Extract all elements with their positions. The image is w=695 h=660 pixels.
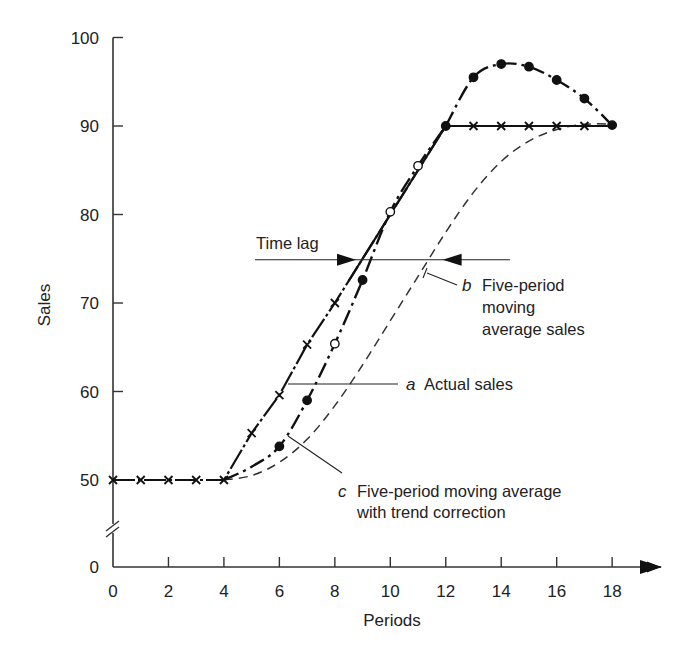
annotation-b-leader xyxy=(427,273,457,285)
y-tick-label: 70 xyxy=(80,294,99,313)
x-tick-label: 2 xyxy=(164,582,173,601)
annotation-a-letter: a xyxy=(406,375,415,394)
y-tick-label: 60 xyxy=(80,383,99,402)
filled-circle-marker-icon xyxy=(580,94,588,102)
filled-circle-marker-icon xyxy=(525,63,533,71)
open-circle-marker-icon xyxy=(386,208,394,216)
annotations xyxy=(255,254,510,473)
x-marker-icon xyxy=(275,391,283,399)
x-tick-label: 18 xyxy=(603,582,622,601)
x-tick-label: 16 xyxy=(547,582,566,601)
sales-moving-average-chart: 05060708090100024681012141618 Sales Peri… xyxy=(0,0,695,660)
series-b-moving-average xyxy=(224,124,612,480)
x-tick-label: 8 xyxy=(330,582,339,601)
filled-circle-marker-icon xyxy=(497,60,505,68)
filled-circle-marker-icon xyxy=(608,121,616,129)
annotation-c-letter: c xyxy=(338,482,347,501)
y-tick-label: 100 xyxy=(71,29,99,48)
series-a-solid-line xyxy=(349,126,612,281)
filled-circle-marker-icon xyxy=(469,73,477,81)
filled-circle-marker-icon xyxy=(358,276,366,284)
filled-circle-marker-icon xyxy=(303,396,311,404)
y-tick-label: 90 xyxy=(80,117,99,136)
open-circle-marker-icon xyxy=(414,162,422,170)
y-tick-label: 50 xyxy=(80,471,99,490)
x-axis-title: Periods xyxy=(363,611,421,630)
x-tick-label: 4 xyxy=(219,582,228,601)
time-lag-arrow-left-icon xyxy=(443,254,462,266)
x-tick-label: 0 xyxy=(108,582,117,601)
annotation-c-line-1: Five-period moving average xyxy=(357,482,562,500)
time-lag-label: Time lag xyxy=(256,234,319,252)
filled-circle-marker-icon xyxy=(552,76,560,84)
y-tick-label: 80 xyxy=(80,206,99,225)
x-tick-label: 14 xyxy=(492,582,511,601)
series-c-trend-corrected xyxy=(224,60,616,480)
filled-circle-marker-icon xyxy=(275,442,283,450)
x-tick-label: 12 xyxy=(436,582,455,601)
y-tick-label: 0 xyxy=(90,558,99,577)
series-a-line xyxy=(113,126,612,480)
x-tick-label: 10 xyxy=(381,582,400,601)
annotation-b-line-3: average sales xyxy=(482,320,585,338)
annotation-a-text: Actual sales xyxy=(424,375,513,393)
annotation-b-leader-tick xyxy=(423,268,427,278)
annotation-b-line-1: Five-period xyxy=(482,276,565,294)
time-lag-arrow-right-icon xyxy=(337,254,356,266)
x-marker-icon xyxy=(137,476,145,484)
filled-circle-marker-icon xyxy=(442,122,450,130)
annotation-b-line-2: moving xyxy=(482,298,535,316)
series-b-line xyxy=(224,124,612,480)
annotation-c-line-2: with trend correction xyxy=(356,503,506,521)
x-axis-arrow-icon xyxy=(640,560,662,574)
x-marker-icon xyxy=(303,341,311,349)
chart: 05060708090100024681012141618 Sales Peri… xyxy=(0,0,695,660)
y-axis-title: Sales xyxy=(35,284,54,327)
annotation-b-letter: b xyxy=(462,276,471,295)
annotation-c-leader xyxy=(288,436,342,473)
x-marker-icon xyxy=(248,429,256,437)
x-marker-icon xyxy=(331,299,339,307)
open-circle-marker-icon xyxy=(331,340,339,348)
series-a-actual-sales xyxy=(109,122,612,484)
x-tick-label: 6 xyxy=(275,582,284,601)
